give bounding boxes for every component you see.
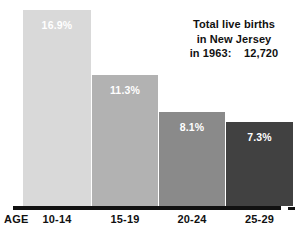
x-axis-line — [13, 206, 281, 210]
chart-annotation: Total live births in New Jersey in 1963:… — [168, 17, 300, 61]
bar-10-14: 16.9% — [23, 10, 91, 206]
x-tick-label: 10-14 — [23, 212, 91, 226]
annotation-line: Total live births — [168, 17, 300, 32]
annotation-line: in 1963: 12,720 — [168, 46, 300, 61]
bar-chart: 16.9% 11.3% 8.1% 7.3% AGE 10-14 15-19 20… — [0, 0, 306, 237]
annotation-line: in New Jersey — [168, 32, 300, 47]
bar-15-19: 11.3% — [92, 75, 158, 206]
x-tick-label: 25-29 — [226, 212, 293, 226]
bar-20-24: 8.1% — [159, 112, 225, 206]
x-axis-tick-labels: AGE 10-14 15-19 20-24 25-29 — [0, 212, 306, 230]
bar-25-29: 7.3% — [226, 122, 293, 206]
bar-value-label: 8.1% — [159, 122, 225, 133]
x-axis-end-tick — [288, 207, 295, 210]
bar-value-label: 11.3% — [92, 85, 158, 96]
x-tick-label: 20-24 — [159, 212, 225, 226]
x-tick-label: 15-19 — [92, 212, 158, 226]
bar-value-label: 7.3% — [226, 132, 293, 143]
bar-value-label: 16.9% — [23, 20, 91, 31]
